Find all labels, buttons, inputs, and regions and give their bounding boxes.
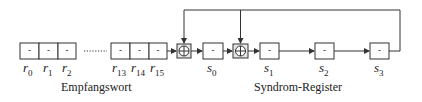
s3-label: s3 bbox=[374, 60, 384, 78]
r2-label: r2 bbox=[62, 60, 72, 78]
syndrom-register-caption: Syndrom-Register bbox=[254, 80, 342, 95]
s1-label: s1 bbox=[264, 60, 274, 78]
r1-value: - bbox=[39, 45, 58, 55]
r0-label: r0 bbox=[23, 60, 33, 78]
s2-value: - bbox=[315, 45, 334, 55]
s0-value: - bbox=[203, 45, 223, 55]
r0-value: - bbox=[20, 45, 39, 55]
s2-label: s2 bbox=[319, 60, 329, 78]
r14-value: - bbox=[130, 45, 149, 55]
r13-value: - bbox=[111, 45, 130, 55]
xor-gate-1 bbox=[177, 44, 191, 58]
r15-label: r15 bbox=[150, 60, 164, 78]
s3-value: - bbox=[370, 45, 389, 55]
s1-value: - bbox=[260, 45, 279, 55]
r14-label: r14 bbox=[131, 60, 145, 78]
syndrome-register-diagram: - - - - - - - - - - r0 r1 r2 r13 r14 r15… bbox=[0, 0, 422, 102]
r1-label: r1 bbox=[43, 60, 53, 78]
r2-value: - bbox=[58, 45, 76, 55]
r13-label: r13 bbox=[112, 60, 126, 78]
empfangswort-caption: Empfangswort bbox=[61, 80, 132, 95]
r15-value: - bbox=[149, 45, 167, 55]
s0-label: s0 bbox=[207, 60, 217, 78]
xor-gate-2 bbox=[233, 44, 248, 58]
